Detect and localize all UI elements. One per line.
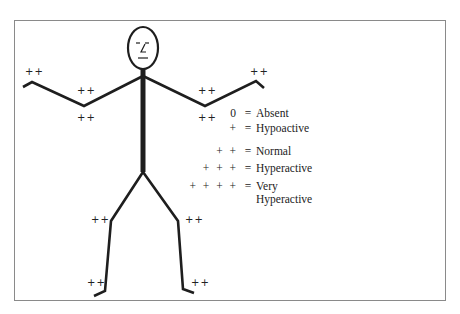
legend-equals: = bbox=[241, 163, 255, 175]
reflex-label-right-ankle: ++ bbox=[191, 278, 210, 288]
reflex-label-right-hand: ++ bbox=[250, 67, 269, 77]
legend-label-line2: Hyperactive bbox=[256, 194, 312, 206]
legend-label: Hypoactive bbox=[256, 123, 309, 135]
reflex-label-left-elbow-upper: ++ bbox=[77, 86, 96, 96]
legend-symbol: 0 bbox=[178, 108, 238, 120]
legend-symbol: + bbox=[178, 123, 238, 135]
legend-equals: = bbox=[241, 108, 255, 120]
legend-equals: = bbox=[241, 146, 255, 158]
legend-label: Absent bbox=[256, 108, 289, 120]
reflex-label-left-knee: ++ bbox=[91, 215, 110, 225]
legend-label: Very bbox=[256, 181, 278, 193]
reflex-label-right-knee: ++ bbox=[185, 215, 204, 225]
reflex-label-right-elbow-upper: ++ bbox=[198, 86, 217, 96]
legend-symbol: + + + bbox=[178, 163, 238, 175]
legend-label: Hyperactive bbox=[256, 163, 312, 175]
reflex-label-left-hand: ++ bbox=[25, 67, 44, 77]
reflex-label-left-elbow-lower: ++ bbox=[77, 113, 96, 123]
legend-equals: = bbox=[241, 123, 255, 135]
reflex-label-left-ankle: ++ bbox=[87, 278, 106, 288]
legend-symbol: + + + + bbox=[178, 181, 238, 193]
legend-symbol: + + bbox=[178, 146, 238, 158]
legend-label: Normal bbox=[256, 146, 291, 158]
head bbox=[128, 27, 158, 69]
legend-equals: = bbox=[241, 181, 255, 193]
